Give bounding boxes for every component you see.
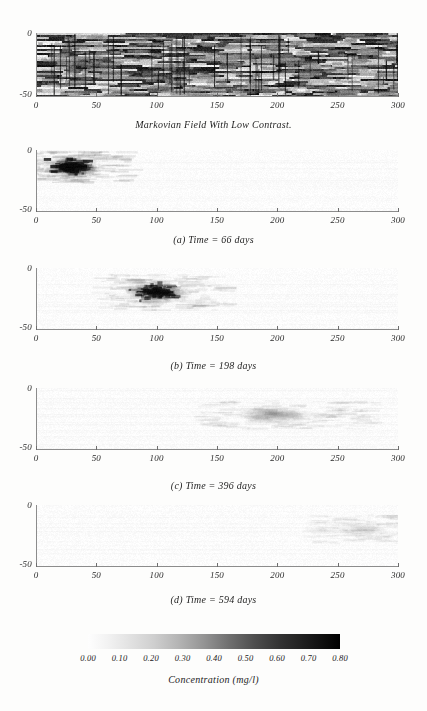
x-tick-label: 50 <box>92 570 101 580</box>
x-tick-label: 0 <box>34 453 39 463</box>
y-tick-neg50-d: -50 <box>8 559 32 569</box>
x-tick-mark <box>338 208 339 212</box>
x-tick-mark <box>217 326 218 330</box>
y-tick-0-a: 0 <box>12 145 32 155</box>
colorbar-tick-label: 0.00 <box>80 653 96 663</box>
x-tick-label: 250 <box>331 215 345 225</box>
x-tick-label: 250 <box>331 100 345 110</box>
x-tick-mark <box>36 563 37 567</box>
x-tick-mark <box>36 208 37 212</box>
colorbar-tick-label: 0.70 <box>301 653 317 663</box>
colorbar-tick-label: 0.40 <box>206 653 222 663</box>
x-tick-mark <box>217 208 218 212</box>
y-tick-0-b: 0 <box>12 263 32 273</box>
y-tick-0-c: 0 <box>12 383 32 393</box>
plot-area-c <box>36 388 398 449</box>
x-tick-mark <box>157 563 158 567</box>
x-tick-mark <box>157 326 158 330</box>
x-tick-mark <box>157 446 158 450</box>
x-tick-mark <box>398 563 399 567</box>
x-tick-label: 300 <box>391 333 405 343</box>
x-tick-label: 50 <box>92 453 101 463</box>
colorbar-tick-label: 0.80 <box>332 653 348 663</box>
caption-d: (d) Time = 594 days <box>0 594 427 605</box>
y-tick-neg50-a: -50 <box>8 204 32 214</box>
colorbar-gradient <box>88 634 340 649</box>
x-tick-label: 100 <box>150 333 164 343</box>
y-axis-line-d <box>36 505 37 566</box>
x-tick-mark <box>338 326 339 330</box>
x-tick-mark <box>338 446 339 450</box>
x-tick-mark <box>277 326 278 330</box>
plot-area-markovian-field <box>36 33 398 96</box>
x-tick-label: 0 <box>34 570 39 580</box>
y-axis-line-b <box>36 268 37 329</box>
y-tick-neg50-field: -50 <box>8 89 32 99</box>
y-tick-neg50-b: -50 <box>8 322 32 332</box>
x-tick-label: 150 <box>210 100 224 110</box>
plume-heatmap-c <box>36 388 398 449</box>
y-axis-line-a <box>36 150 37 211</box>
x-tick-label: 250 <box>331 570 345 580</box>
caption-c: (c) Time = 396 days <box>0 480 427 491</box>
x-tick-label: 100 <box>150 100 164 110</box>
x-tick-mark <box>398 446 399 450</box>
x-tick-mark <box>277 93 278 97</box>
x-tick-label: 250 <box>331 333 345 343</box>
x-tick-label: 200 <box>270 570 284 580</box>
x-tick-mark <box>277 563 278 567</box>
x-tick-label: 200 <box>270 215 284 225</box>
x-tick-label: 100 <box>150 215 164 225</box>
x-tick-label: 300 <box>391 100 405 110</box>
y-tick-neg50-c: -50 <box>8 442 32 452</box>
x-tick-mark <box>398 208 399 212</box>
x-tick-label: 200 <box>270 100 284 110</box>
x-tick-label: 100 <box>150 453 164 463</box>
x-tick-label: 50 <box>92 215 101 225</box>
plume-heatmap-b <box>36 268 398 329</box>
x-tick-label: 150 <box>210 333 224 343</box>
x-tick-label: 0 <box>34 215 39 225</box>
x-tick-mark <box>338 93 339 97</box>
x-tick-label: 200 <box>270 333 284 343</box>
x-tick-mark <box>277 208 278 212</box>
x-tick-mark <box>157 93 158 97</box>
colorbar-tick-label: 0.30 <box>175 653 191 663</box>
plume-heatmap-d <box>36 505 398 566</box>
y-axis-line-c <box>36 388 37 449</box>
x-tick-label: 100 <box>150 570 164 580</box>
colorbar-tick-label: 0.60 <box>269 653 285 663</box>
x-tick-label: 50 <box>92 100 101 110</box>
x-tick-mark <box>96 563 97 567</box>
x-tick-mark <box>96 446 97 450</box>
markovian-field-heatmap <box>36 33 398 96</box>
x-tick-label: 0 <box>34 100 39 110</box>
plot-area-d <box>36 505 398 566</box>
y-tick-0-field: 0 <box>12 28 32 38</box>
x-tick-label: 150 <box>210 215 224 225</box>
colorbar-tick-label: 0.20 <box>143 653 159 663</box>
caption-b: (b) Time = 198 days <box>0 360 427 371</box>
x-tick-label: 300 <box>391 215 405 225</box>
x-tick-mark <box>36 326 37 330</box>
y-axis-line-field <box>36 33 37 96</box>
plot-area-a <box>36 150 398 211</box>
x-tick-label: 0 <box>34 333 39 343</box>
x-tick-mark <box>277 446 278 450</box>
x-tick-mark <box>157 208 158 212</box>
x-tick-mark <box>398 326 399 330</box>
x-tick-mark <box>96 326 97 330</box>
x-tick-label: 300 <box>391 570 405 580</box>
caption-markovian-field: Markovian Field With Low Contrast. <box>0 119 427 130</box>
x-tick-mark <box>96 208 97 212</box>
caption-a: (a) Time = 66 days <box>0 234 427 245</box>
x-tick-mark <box>217 563 218 567</box>
plot-area-b <box>36 268 398 329</box>
x-tick-label: 150 <box>210 570 224 580</box>
x-tick-label: 150 <box>210 453 224 463</box>
y-tick-0-d: 0 <box>12 500 32 510</box>
x-tick-mark <box>338 563 339 567</box>
colorbar-title: Concentration (mg/l) <box>0 674 427 685</box>
x-tick-label: 300 <box>391 453 405 463</box>
x-tick-mark <box>217 446 218 450</box>
